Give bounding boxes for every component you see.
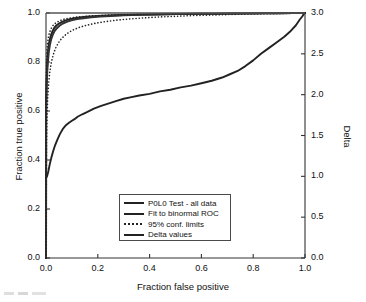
y-left-tick-label-3: 0.6 [0,105,40,115]
legend-entry-1: Fit to binormal ROC [120,209,230,220]
legend-label-1: Fit to binormal ROC [148,209,219,218]
y-right-tick-label-5: 2.5 [311,48,351,58]
y-left-tick-label-4: 0.8 [0,56,40,66]
scan-artifact [4,292,46,295]
roc-chart-figure: Fraction false positive Fraction true po… [0,0,366,302]
y-right-tick-label-3: 1.5 [311,130,351,140]
legend-entry-3: Delta values [120,230,230,241]
y-axis-title-left: Fraction true positive [13,62,24,212]
chart-legend: P0L0 Test - all dataFit to binormal ROC9… [119,194,231,241]
series-path-4 [46,13,305,178]
x-tick-label-5: 1.0 [285,263,325,273]
legend-label-3: Delta values [148,230,192,239]
x-tick-label-4: 0.8 [233,263,273,273]
legend-line-sample-solid [124,210,144,218]
y-right-tick-label-4: 2.0 [311,89,351,99]
y-right-tick-label-6: 3.0 [311,7,351,17]
y-right-tick-label-0: 0.0 [311,252,351,262]
legend-entry-0: P0L0 Test - all data [120,198,230,209]
y-left-tick-label-0: 0.0 [0,252,40,262]
y-right-tick-label-2: 1.0 [311,170,351,180]
x-tick-label-2: 0.4 [130,263,170,273]
x-tick-label-0: 0.0 [26,263,66,273]
legend-line-sample-solid [124,199,144,207]
x-tick-label-1: 0.2 [78,263,118,273]
y-left-tick-label-5: 1.0 [0,7,40,17]
legend-line-sample-dotted [124,220,144,228]
y-left-tick-label-2: 0.4 [0,154,40,164]
x-axis-ticks [46,254,305,258]
legend-entry-2: 95% conf. limits [120,219,230,230]
legend-label-0: P0L0 Test - all data [148,199,216,208]
y-left-tick-label-1: 0.2 [0,203,40,213]
x-axis-title: Fraction false positive [0,281,366,292]
x-tick-label-3: 0.6 [181,263,221,273]
legend-line-sample-solid [124,231,144,239]
legend-label-2: 95% conf. limits [148,220,204,229]
y-right-tick-label-1: 0.5 [311,211,351,221]
right-axis-ticks [301,13,305,258]
